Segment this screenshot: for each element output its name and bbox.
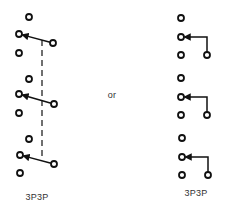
contact-left-1 <box>16 31 22 37</box>
right-switch-caption: 3P3P <box>185 188 208 198</box>
l-wiper-2 <box>185 97 208 112</box>
contact-bottom-1 <box>16 50 22 56</box>
contact-bottom-1 <box>178 52 184 58</box>
contact-bottom-2 <box>178 112 184 118</box>
contact-mid-1 <box>178 34 184 40</box>
contact-left-3 <box>17 152 23 158</box>
contact-common-2 <box>204 112 210 118</box>
pivot-2 <box>51 101 57 107</box>
wiper-arm-1 <box>22 35 50 42</box>
contact-top-1 <box>26 14 32 20</box>
pivot-1 <box>50 40 56 46</box>
l-wiper-1 <box>185 37 208 52</box>
contact-top-2 <box>26 76 32 82</box>
contact-top-2 <box>178 75 184 81</box>
left-3p3p-switch <box>16 14 57 176</box>
contact-bottom-2 <box>16 110 22 116</box>
pivot-3 <box>51 161 57 167</box>
or-separator-label: or <box>108 90 116 100</box>
wiper-arm-3 <box>23 156 51 163</box>
contact-top-3 <box>179 135 185 141</box>
wiper-arm-2 <box>22 95 51 103</box>
l-wiper-3 <box>186 157 209 172</box>
contact-common-3 <box>205 172 211 178</box>
contact-top-3 <box>26 136 32 142</box>
contact-mid-3 <box>179 154 185 160</box>
contact-bottom-3 <box>179 172 185 178</box>
left-switch-caption: 3P3P <box>26 192 49 202</box>
contact-common-1 <box>204 52 210 58</box>
contact-mid-2 <box>178 94 184 100</box>
switch-diagram <box>0 0 226 212</box>
contact-bottom-3 <box>17 170 23 176</box>
right-3p3p-switch <box>178 15 211 178</box>
contact-left-2 <box>16 91 22 97</box>
contact-top-1 <box>178 15 184 21</box>
